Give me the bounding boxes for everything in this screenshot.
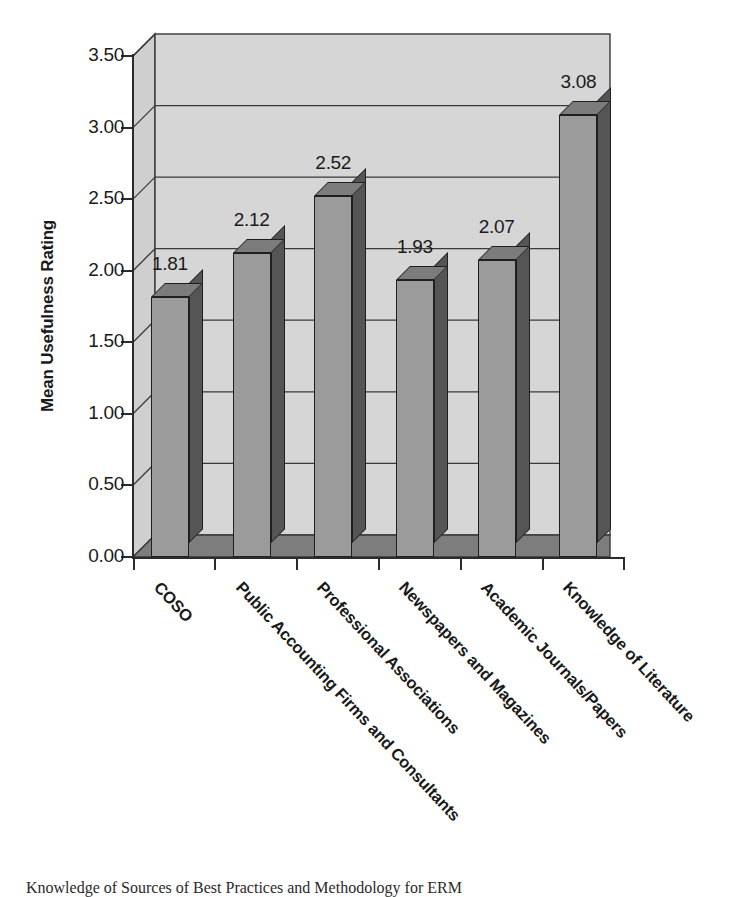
x-axis-category-label: Knowledge of Literature <box>559 578 699 726</box>
figure-caption: Knowledge of Sources of Best Practices a… <box>26 879 726 897</box>
x-axis-category-label: COSO <box>150 578 196 626</box>
x-axis-category-label: Newspapers and Magazines <box>395 578 555 748</box>
x-axis-category-label: Academic Journals/Papers <box>477 578 631 742</box>
x-axis-category-label: Professional Associations <box>313 578 464 738</box>
